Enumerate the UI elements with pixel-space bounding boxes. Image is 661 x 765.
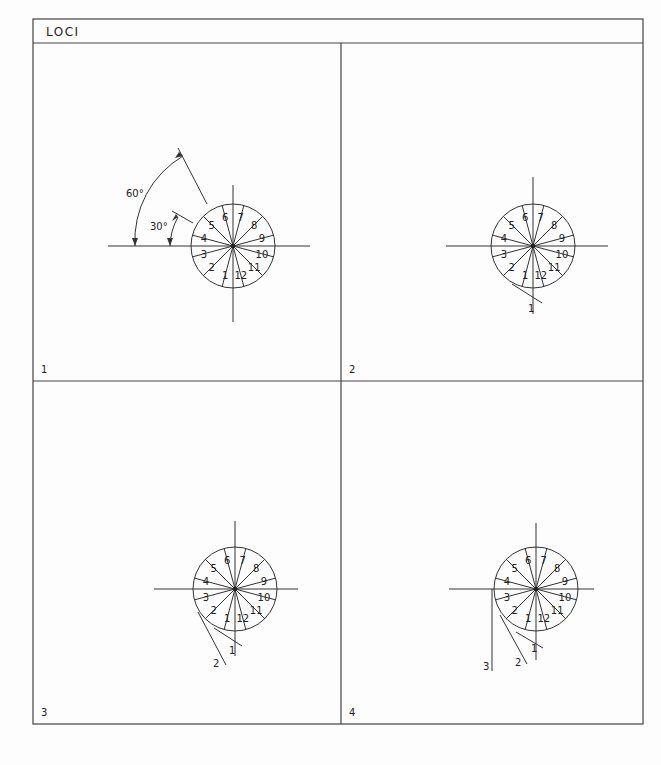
segment-label-1: 1 [222, 270, 228, 281]
segment-label-5: 5 [209, 220, 215, 231]
segment-label-6: 6 [222, 212, 228, 223]
segment-label-2: 2 [211, 605, 217, 616]
segment-label-12: 12 [234, 270, 247, 281]
panel-2-diagram: 1 [446, 177, 608, 314]
segment-label-8: 8 [251, 220, 257, 231]
segment-label-3: 3 [201, 249, 207, 260]
segment-label-12: 12 [534, 270, 547, 281]
locus-point-2-label: 2 [515, 657, 521, 668]
segment-label-6: 6 [525, 555, 531, 566]
segment-label-11: 11 [548, 262, 561, 273]
angle-60-label: 60° [126, 188, 144, 199]
segment-label-10: 10 [256, 249, 269, 260]
panel-4-number: 4 [349, 707, 355, 718]
segment-label-11: 11 [250, 605, 263, 616]
segment-label-1: 1 [525, 613, 531, 624]
locus-point-2-label: 2 [213, 658, 219, 669]
center-point [233, 587, 237, 591]
center-point [531, 244, 535, 248]
segment-label-10: 10 [258, 592, 271, 603]
segment-label-3: 3 [501, 249, 507, 260]
segment-label-8: 8 [554, 563, 560, 574]
panel-4-diagram: 1 2 3 [449, 523, 594, 672]
sheet-title: LOCI [46, 25, 80, 39]
segment-label-5: 5 [211, 563, 217, 574]
segment-label-8: 8 [551, 220, 557, 231]
segment-label-3: 3 [203, 592, 209, 603]
panel-1-diagram: 60° 30° [108, 148, 310, 322]
panel-3-number: 3 [41, 707, 47, 718]
frame [33, 19, 643, 724]
segment-label-10: 10 [559, 592, 572, 603]
segment-label-7: 7 [240, 555, 246, 566]
segment-label-11: 11 [248, 262, 261, 273]
segment-label-2: 2 [509, 262, 515, 273]
locus-point-1-label: 1 [229, 645, 235, 656]
segment-label-7: 7 [541, 555, 547, 566]
center-point [534, 587, 538, 591]
segment-label-1: 1 [522, 270, 528, 281]
segment-label-4: 4 [201, 233, 207, 244]
segment-label-9: 9 [562, 576, 568, 587]
segment-label-4: 4 [501, 233, 507, 244]
locus-point-1-label: 1 [531, 643, 537, 654]
segment-label-1: 1 [224, 613, 230, 624]
segment-label-6: 6 [522, 212, 528, 223]
segment-label-3: 3 [504, 592, 510, 603]
segment-label-4: 4 [203, 576, 209, 587]
loci-drawing-sheet: LOCI 1 2 3 4 60° 30° 1 1 2 [0, 0, 661, 765]
segment-label-10: 10 [556, 249, 569, 260]
segment-label-6: 6 [224, 555, 230, 566]
segment-label-9: 9 [559, 233, 565, 244]
segment-label-9: 9 [261, 576, 267, 587]
center-point [231, 244, 235, 248]
segment-label-4: 4 [504, 576, 510, 587]
angle-30-label: 30° [150, 221, 168, 232]
segment-label-9: 9 [259, 233, 265, 244]
segment-label-2: 2 [209, 262, 215, 273]
segment-label-7: 7 [538, 212, 544, 223]
segment-label-7: 7 [238, 212, 244, 223]
segment-label-12: 12 [236, 613, 249, 624]
panel-2-number: 2 [349, 364, 355, 375]
segment-label-2: 2 [512, 605, 518, 616]
segment-label-5: 5 [512, 563, 518, 574]
segment-label-5: 5 [509, 220, 515, 231]
segment-label-8: 8 [253, 563, 259, 574]
segment-label-12: 12 [537, 613, 550, 624]
locus-point-3-label: 3 [483, 661, 489, 672]
locus-point-1-label: 1 [528, 303, 534, 314]
segment-label-11: 11 [551, 605, 564, 616]
panel-1-number: 1 [41, 364, 47, 375]
